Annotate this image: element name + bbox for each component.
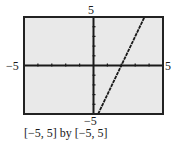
- y-max-label: 5: [88, 4, 94, 16]
- window-caption: [−5, 5] by [−5, 5]: [24, 126, 108, 141]
- x-max-label: 5: [165, 60, 171, 72]
- x-min-label: −5: [6, 60, 19, 72]
- calculator-graph-figure: 5 −5 −5 5 [−5, 5] by [−5, 5]: [0, 0, 172, 151]
